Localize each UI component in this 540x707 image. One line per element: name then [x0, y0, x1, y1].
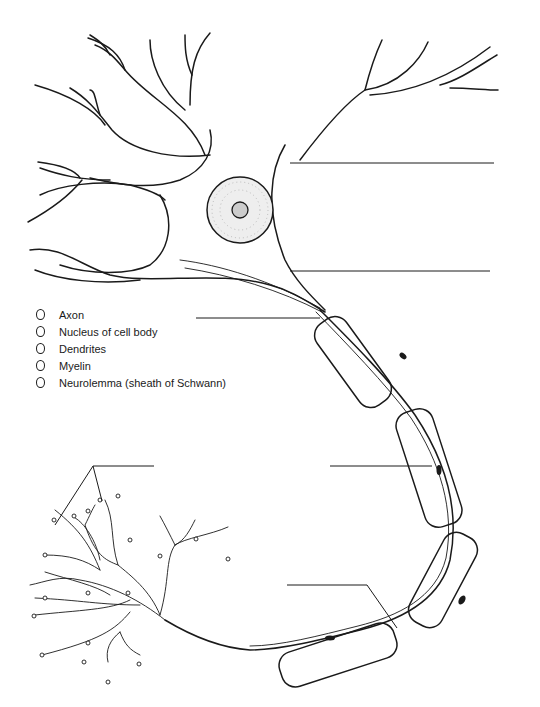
checkbox-circle-icon[interactable] [36, 343, 45, 354]
legend-label: Neurolemma (sheath of Schwann) [59, 377, 226, 389]
cell-body [30, 130, 325, 312]
legend-item-dendrites[interactable]: Dendrites [36, 340, 226, 357]
legend: Axon Nucleus of cell body Dendrites Myel… [36, 306, 226, 391]
checkbox-circle-icon[interactable] [36, 377, 45, 388]
checkbox-circle-icon[interactable] [36, 360, 45, 371]
legend-label: Axon [59, 309, 84, 321]
legend-item-myelin[interactable]: Myelin [36, 357, 226, 374]
axon-terminals [30, 494, 230, 684]
legend-item-nucleus[interactable]: Nucleus of cell body [36, 323, 226, 340]
legend-label: Myelin [59, 360, 91, 372]
dendrites-right [300, 40, 498, 160]
nucleus [207, 177, 273, 243]
dendrites-upper [28, 33, 210, 222]
legend-item-neurolemma[interactable]: Neurolemma (sheath of Schwann) [36, 374, 226, 391]
legend-item-axon[interactable]: Axon [36, 306, 226, 323]
label-lines [55, 163, 494, 628]
legend-label: Dendrites [59, 343, 106, 355]
checkbox-circle-icon[interactable] [36, 326, 45, 337]
checkbox-circle-icon[interactable] [36, 309, 45, 320]
legend-label: Nucleus of cell body [59, 326, 157, 338]
